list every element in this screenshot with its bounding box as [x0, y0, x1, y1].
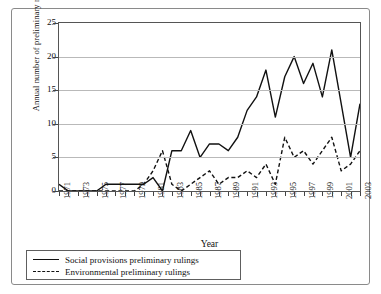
x-axis-tick-mark — [172, 192, 173, 196]
series-line-environmental — [59, 137, 360, 191]
x-axis-title: Year — [58, 239, 361, 249]
x-axis-tick-mark — [322, 192, 323, 196]
x-axis-tick-mark — [238, 192, 239, 196]
legend-item-environmental: Environmental preliminary rulings — [31, 266, 236, 277]
x-axis-tick-mark — [285, 192, 286, 196]
x-axis-tick-mark — [247, 192, 248, 196]
x-axis-tick-mark — [257, 192, 258, 196]
x-axis-tick-mark — [219, 192, 220, 196]
x-axis-tick-mark — [275, 192, 276, 196]
x-axis-tick-mark — [294, 192, 295, 196]
x-axis-tick-mark — [97, 192, 98, 196]
legend-line-dashed-icon — [33, 268, 59, 276]
x-axis-tick-mark — [78, 192, 79, 196]
x-axis-tick-mark — [162, 192, 163, 196]
x-axis-tick-mark — [106, 192, 107, 196]
x-axis-tick-mark — [144, 192, 145, 196]
x-axis-tick-mark — [200, 192, 201, 196]
gridline — [59, 57, 360, 58]
x-axis-tick-mark — [360, 192, 361, 196]
x-axis-tick-mark — [181, 192, 182, 196]
x-axis-tick-mark — [134, 192, 135, 196]
gridline — [59, 90, 360, 91]
gridline — [59, 157, 360, 158]
legend-item-social: Social provisions preliminary rulings — [31, 254, 236, 265]
x-axis-tick-mark — [59, 192, 60, 196]
legend: Social provisions preliminary rulings En… — [26, 250, 241, 280]
legend-label-social: Social provisions preliminary rulings — [65, 255, 199, 265]
x-axis-tick-mark — [266, 192, 267, 196]
x-axis-tick-mark — [87, 192, 88, 196]
x-axis-tick-label: 2003 — [364, 182, 373, 199]
x-axis-tick-mark — [153, 192, 154, 196]
x-axis-tick-mark — [332, 192, 333, 196]
x-axis-tick-mark — [191, 192, 192, 196]
legend-label-environmental: Environmental preliminary rulings — [65, 267, 190, 277]
x-axis-tick-mark — [68, 192, 69, 196]
x-axis-tick-mark — [125, 192, 126, 196]
x-axis-tick-mark — [304, 192, 305, 196]
legend-line-solid-icon — [33, 256, 59, 264]
x-axis-tick-mark — [351, 192, 352, 196]
x-axis-tick-mark — [313, 192, 314, 196]
x-axis-tick-mark — [341, 192, 342, 196]
series-canvas — [59, 23, 360, 191]
x-axis-tick-mark — [115, 192, 116, 196]
x-axis-tick-mark — [228, 192, 229, 196]
series-line-social — [59, 50, 360, 191]
gridline — [59, 124, 360, 125]
plot-area — [58, 22, 361, 192]
figure: Annual number of preliminary rulings 051… — [0, 0, 381, 294]
x-axis-tick-mark — [210, 192, 211, 196]
